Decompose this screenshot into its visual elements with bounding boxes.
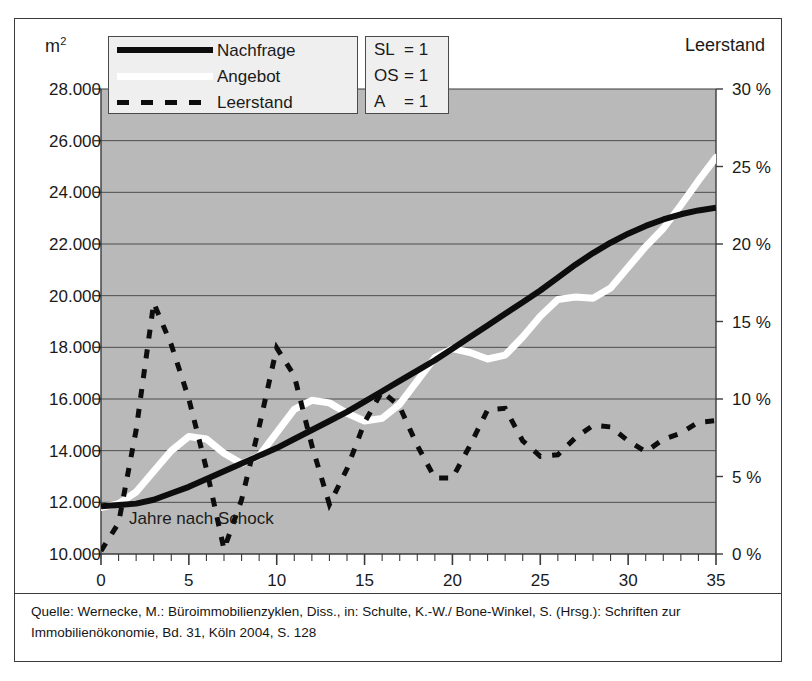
- left-tick-label: 16.000: [15, 391, 101, 408]
- left-tick-label: 18.000: [15, 339, 101, 356]
- legend-label-nachfrage: Nachfrage: [217, 42, 295, 59]
- parameter-row-a: A = 1: [366, 89, 448, 115]
- parameter-key-a: A: [374, 92, 404, 112]
- right-tick-label: 15 %: [732, 314, 802, 331]
- right-tick-label: 0 %: [732, 546, 802, 563]
- legend-swatch-leerstand: [109, 89, 217, 115]
- left-tick-label: 22.000: [15, 236, 101, 253]
- caption-line-2: Immobilienökonomie, Bd. 31, Köln 2004, S…: [31, 622, 766, 643]
- parameter-value-os: = 1: [404, 66, 428, 86]
- left-tick-label: 14.000: [15, 443, 101, 460]
- source-caption: Quelle: Wernecke, M.: Büroimmobilienzykl…: [31, 601, 766, 643]
- caption-line-1: Quelle: Wernecke, M.: Büroimmobilienzykl…: [31, 601, 766, 622]
- left-tick-label: 20.000: [15, 288, 101, 305]
- legend-label-leerstand: Leerstand: [217, 94, 293, 111]
- x-tick-label: 35: [696, 572, 736, 589]
- right-tick-label: 5 %: [732, 469, 802, 486]
- x-tick-label: 25: [520, 572, 560, 589]
- legend-parameters-box: SL = 1 OS = 1 A = 1: [365, 36, 449, 114]
- parameter-key-sl: SL: [374, 40, 404, 60]
- legend-label-angebot: Angebot: [217, 68, 280, 85]
- x-tick-label: 10: [257, 572, 297, 589]
- legend-swatch-angebot: [109, 63, 217, 89]
- right-tick-label: 30 %: [732, 81, 802, 98]
- right-tick-label: 20 %: [732, 236, 802, 253]
- plot-area: 10.00012.00014.00016.00018.00020.00022.0…: [15, 19, 783, 663]
- left-tick-label: 10.000: [15, 546, 101, 563]
- x-tick-label: 15: [345, 572, 385, 589]
- legend-item-angebot: Angebot: [109, 63, 357, 89]
- legend-item-nachfrage: Nachfrage: [109, 37, 357, 63]
- parameter-row-sl: SL = 1: [366, 37, 448, 63]
- legend-swatch-nachfrage: [109, 37, 217, 63]
- left-tick-label: 26.000: [15, 133, 101, 150]
- left-tick-label: 28.000: [15, 81, 101, 98]
- left-tick-label: 24.000: [15, 184, 101, 201]
- x-tick-label: 0: [81, 572, 121, 589]
- caption-divider: [15, 593, 781, 594]
- right-tick-label: 10 %: [732, 391, 802, 408]
- right-tick-label: 25 %: [732, 159, 802, 176]
- parameter-row-os: OS = 1: [366, 63, 448, 89]
- x-tick-label: 20: [432, 572, 472, 589]
- x-tick-label: 5: [169, 572, 209, 589]
- legend-item-leerstand: Leerstand: [109, 89, 357, 115]
- parameter-value-sl: = 1: [404, 40, 428, 60]
- figure-frame: m2 Leerstand 10.00012.00014.00016.00018.…: [14, 18, 782, 662]
- parameter-key-os: OS: [374, 66, 404, 86]
- legend-series-box: Nachfrage Angebot Leerstand: [108, 36, 358, 114]
- chart-svg: [15, 19, 783, 663]
- plot-annotation: Jahre nach Schock: [129, 510, 274, 527]
- parameter-value-a: = 1: [404, 92, 428, 112]
- x-tick-label: 30: [608, 572, 648, 589]
- left-tick-label: 12.000: [15, 494, 101, 511]
